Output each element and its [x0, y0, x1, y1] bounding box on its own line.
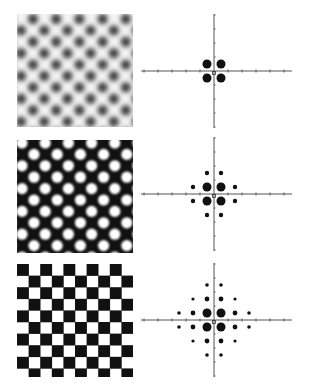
peak: [217, 197, 226, 206]
peak: [203, 323, 212, 332]
peak: [233, 199, 237, 203]
spectrum-blurred-dots: [140, 13, 294, 129]
peak: [219, 297, 224, 302]
peak: [205, 353, 209, 357]
fourier-spectrum-plot: [140, 262, 294, 378]
peak: [203, 197, 212, 206]
peak: [203, 309, 212, 318]
pattern-image: [17, 140, 133, 253]
peak: [219, 213, 223, 217]
peak: [217, 183, 226, 192]
peak: [205, 171, 209, 175]
peak: [219, 353, 223, 357]
peak: [219, 283, 223, 287]
peak: [233, 339, 236, 342]
peak: [233, 325, 238, 330]
peak: [203, 74, 212, 83]
peak: [217, 309, 226, 318]
peak: [203, 183, 212, 192]
peak: [191, 199, 195, 203]
peak: [217, 323, 226, 332]
fourier-spectrum-plot: [140, 13, 294, 129]
peak: [205, 213, 209, 217]
peak: [191, 297, 194, 300]
peak: [205, 283, 209, 287]
peak: [191, 185, 195, 189]
pattern-blurred-dots: [17, 14, 133, 127]
spectrum-checkerboard: [140, 262, 294, 378]
pattern-checkerboard: [17, 264, 133, 377]
peak: [205, 297, 210, 302]
peak: [219, 171, 223, 175]
peak: [191, 311, 196, 316]
pattern-sharp-dots: [17, 140, 133, 253]
peak: [177, 325, 181, 329]
peak: [177, 311, 181, 315]
peak: [219, 339, 224, 344]
peak: [205, 339, 210, 344]
pattern-image: [17, 14, 133, 127]
pattern-image: [17, 264, 133, 377]
peak: [247, 311, 251, 315]
peak: [233, 311, 238, 316]
peak: [217, 60, 226, 69]
peak: [191, 339, 194, 342]
peak: [203, 60, 212, 69]
spectrum-sharp-dots: [140, 136, 294, 252]
fourier-spectrum-plot: [140, 136, 294, 252]
peak: [247, 325, 251, 329]
peak: [191, 325, 196, 330]
peak: [233, 185, 237, 189]
peak: [217, 74, 226, 83]
peak: [233, 297, 236, 300]
